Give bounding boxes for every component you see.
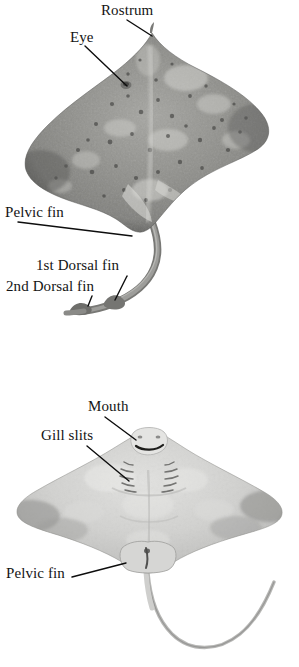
leader-pelvic-fin-ventral [72, 563, 126, 577]
ventral-snout [131, 428, 168, 455]
label-first-dorsal-fin: 1st Dorsal fin [36, 258, 119, 273]
label-gill-slits: Gill slits [41, 428, 93, 443]
ventral-tail [146, 572, 274, 648]
leader-rostrum [127, 20, 152, 36]
label-eye: Eye [70, 30, 94, 45]
label-rostrum: Rostrum [101, 3, 153, 18]
ventral-specimen [0, 420, 299, 648]
leader-mouth [105, 417, 136, 440]
label-pelvic-fin-ventral: Pelvic fin [6, 566, 65, 581]
leader-pelvic-fin-dorsal [18, 222, 132, 236]
anatomy-figure: Rostrum Eye Pelvic fin 1st Dorsal fin 2n… [0, 0, 299, 667]
label-mouth: Mouth [88, 399, 129, 414]
label-pelvic-fin-dorsal: Pelvic fin [5, 205, 64, 220]
leader-second-dorsal-fin [88, 296, 92, 306]
label-second-dorsal-fin: 2nd Dorsal fin [6, 279, 94, 294]
rostrum-feature [150, 22, 154, 33]
